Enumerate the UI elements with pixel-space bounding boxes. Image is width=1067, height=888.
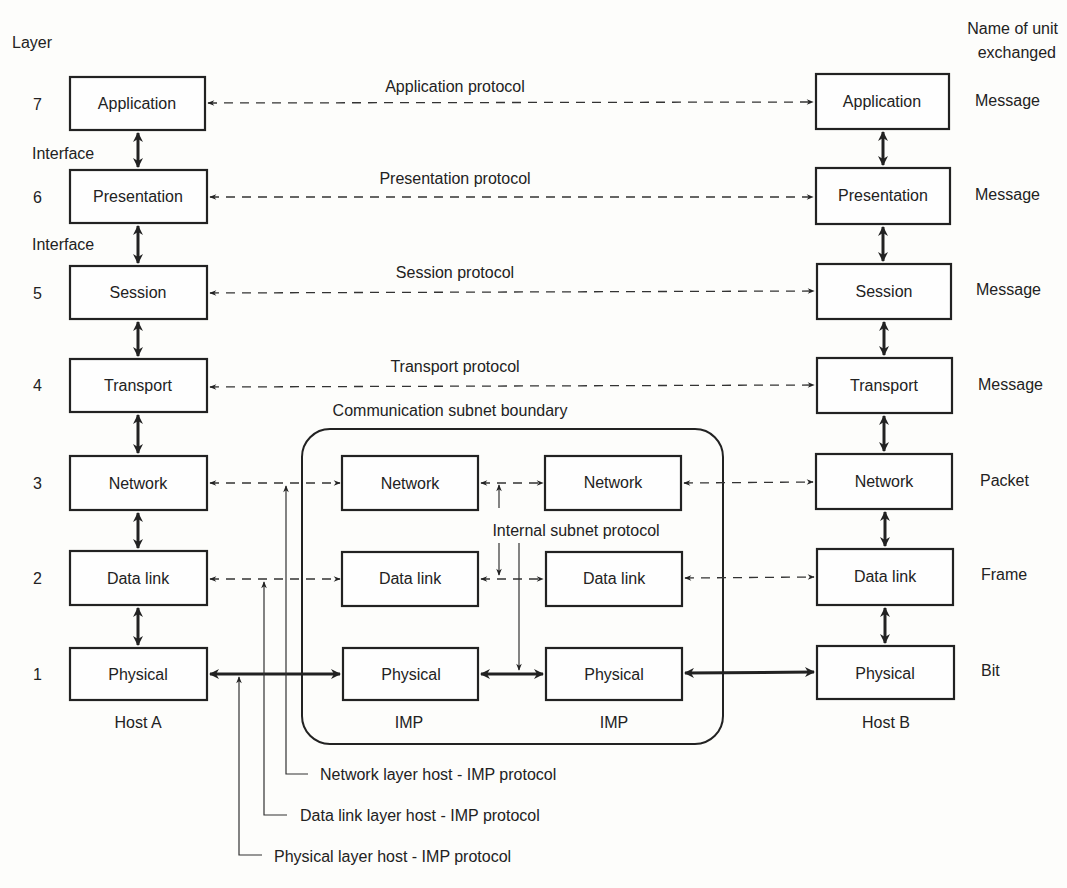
host-b-transport-label: Transport <box>850 377 918 394</box>
osi-reference-model-diagram: Layer Name of unit exchanged 7 6 5 4 3 2… <box>0 0 1067 888</box>
host-b-physical-label: Physical <box>855 665 915 682</box>
host-a-application-label: Application <box>98 95 176 112</box>
peer-protocol-lines <box>208 102 814 387</box>
layer-number-7: 7 <box>33 96 42 113</box>
unit-transport: Message <box>978 376 1043 393</box>
layer-number-6: 6 <box>33 189 42 206</box>
application-protocol-label: Application protocol <box>385 78 525 95</box>
physical-host-imp-protocol-label: Physical layer host - IMP protocol <box>274 848 511 865</box>
network-host-imp-protocol-label: Network layer host - IMP protocol <box>320 766 556 783</box>
layer-number-3: 3 <box>33 475 42 492</box>
layer-number-2: 2 <box>33 570 42 587</box>
datalink-host-imp-protocol-label: Data link layer host - IMP protocol <box>300 807 540 824</box>
host-b-session-label: Session <box>856 283 913 300</box>
host-a-session-label: Session <box>110 284 167 301</box>
layer-number-5: 5 <box>33 285 42 302</box>
layer-number-4: 4 <box>33 377 42 394</box>
session-protocol-label: Session protocol <box>396 264 514 281</box>
internal-subnet-protocol-label: Internal subnet protocol <box>492 522 659 539</box>
unit-column-header-line2: exchanged <box>978 44 1056 61</box>
imp-right-physical-label: Physical <box>584 666 644 683</box>
imp-right-label: IMP <box>600 714 628 731</box>
unit-presentation: Message <box>975 186 1040 203</box>
imp-right-network-label: Network <box>584 474 644 491</box>
imp-left-network-label: Network <box>381 475 441 492</box>
unit-network: Packet <box>980 472 1029 489</box>
unit-application: Message <box>975 92 1040 109</box>
host-a-physical-label: Physical <box>108 666 168 683</box>
subnet-boundary-label: Communication subnet boundary <box>333 402 568 419</box>
imp-left-datalink-label: Data link <box>379 570 442 587</box>
layer-column-header: Layer <box>12 34 53 51</box>
imp-left-label: IMP <box>395 714 423 731</box>
host-b-presentation-label: Presentation <box>838 187 928 204</box>
unit-datalink: Frame <box>981 566 1027 583</box>
host-b-network-label: Network <box>855 473 915 490</box>
imp-left-physical-label: Physical <box>381 666 441 683</box>
host-imp-callouts <box>239 486 308 855</box>
host-a-datalink-label: Data link <box>107 570 170 587</box>
interface-label-6-5: Interface <box>32 236 94 253</box>
transport-protocol-label: Transport protocol <box>390 358 519 375</box>
host-b-datalink-label: Data link <box>854 568 917 585</box>
presentation-protocol-label: Presentation protocol <box>379 170 530 187</box>
unit-column-header-line1: Name of unit <box>967 20 1058 37</box>
host-a-label: Host A <box>114 714 161 731</box>
host-a-presentation-label: Presentation <box>93 188 183 205</box>
layer-number-1: 1 <box>33 666 42 683</box>
host-b-label: Host B <box>862 714 910 731</box>
imp-right-datalink-label: Data link <box>583 570 646 587</box>
unit-physical: Bit <box>981 662 1000 679</box>
imp-right: Network Data link Physical IMP <box>545 456 682 731</box>
host-a-transport-label: Transport <box>104 377 172 394</box>
interface-label-7-6: Interface <box>32 145 94 162</box>
host-a-network-label: Network <box>109 475 169 492</box>
vertical-interface-arrows <box>138 132 885 645</box>
imp-left: Network Data link Physical IMP <box>342 456 478 731</box>
unit-session: Message <box>976 281 1041 298</box>
host-b-application-label: Application <box>843 93 921 110</box>
